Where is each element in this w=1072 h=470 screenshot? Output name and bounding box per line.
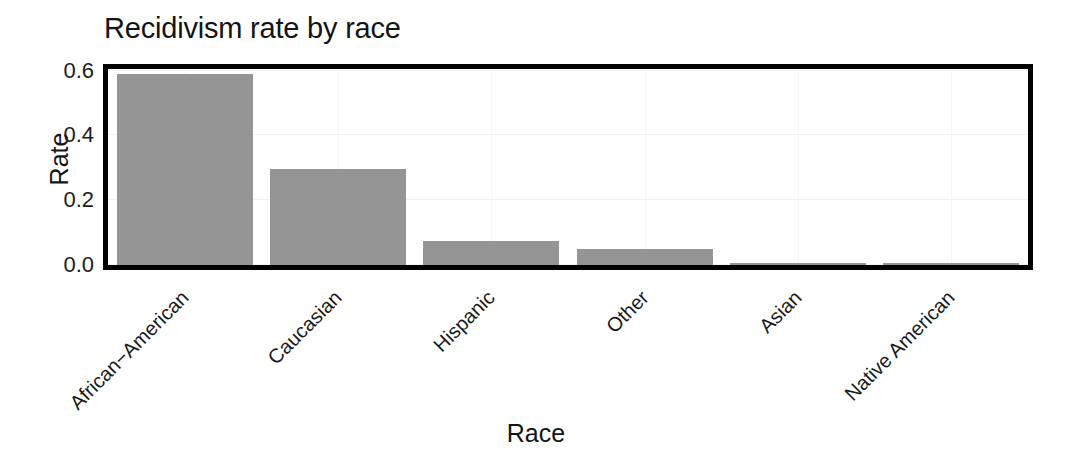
x-axis-title: Race <box>0 419 1072 447</box>
x-axis-tick-labels: African−AmericanCaucasianHispanicOtherAs… <box>0 0 1072 470</box>
chart-figure: Recidivism rate by race Rate 0.00.20.40.… <box>0 0 1072 470</box>
